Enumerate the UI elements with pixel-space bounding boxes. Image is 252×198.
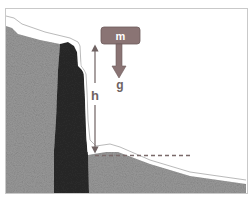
mass-label: m [116, 30, 126, 42]
height-label: h [91, 88, 99, 103]
gravity-label: g [116, 78, 123, 92]
cliff-fall-diagram: h m g [0, 0, 252, 198]
rock-light [6, 26, 62, 193]
